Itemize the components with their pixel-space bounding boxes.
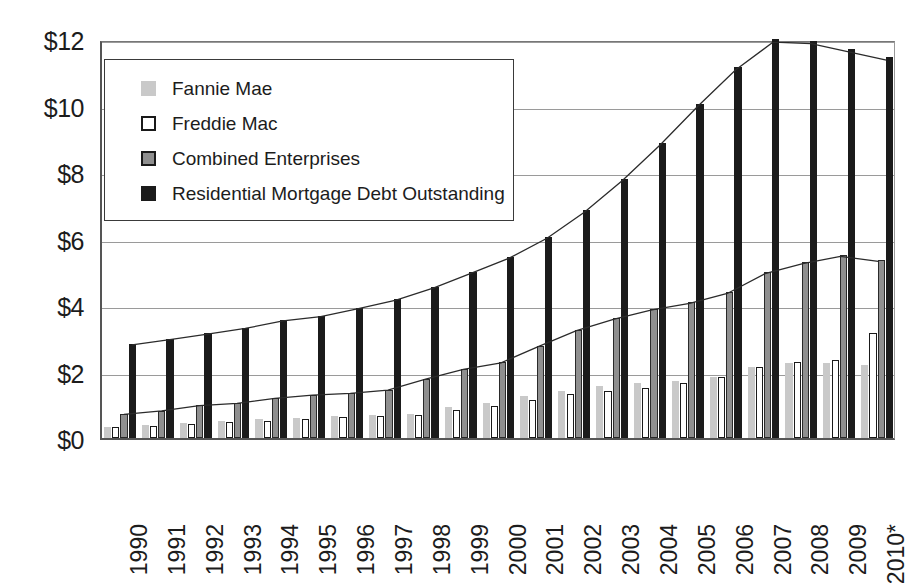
- bar-residential-mortgage-debt: [621, 179, 628, 438]
- x-tick-label: 2002: [582, 524, 605, 575]
- bar-fannie-mae: [710, 377, 717, 439]
- bar-residential-mortgage-debt: [129, 344, 136, 438]
- bar-fannie-mae: [142, 425, 149, 438]
- bar-residential-mortgage-debt: [848, 49, 855, 438]
- legend-label: Residential Mortgage Debt Outstanding: [172, 184, 505, 203]
- bar-fannie-mae: [255, 419, 262, 438]
- bar-residential-mortgage-debt: [886, 57, 893, 438]
- bar-group: [783, 42, 821, 438]
- bar-residential-mortgage-debt: [507, 257, 514, 438]
- bar-freddie-mac: [415, 415, 422, 438]
- x-tick-label: 1991: [166, 524, 189, 575]
- bar-combined-enterprises: [461, 369, 468, 438]
- x-tick-label: 2006: [734, 524, 757, 575]
- bar-combined-enterprises: [840, 255, 847, 438]
- bar-freddie-mac: [832, 360, 839, 438]
- x-tick-label: 2004: [658, 524, 681, 575]
- bar-residential-mortgage-debt: [356, 308, 363, 438]
- legend-item-fannie-mae: Fannie Mae: [141, 71, 513, 106]
- bar-residential-mortgage-debt: [166, 339, 173, 438]
- bar-freddie-mac: [718, 377, 725, 439]
- bar-freddie-mac: [604, 391, 611, 438]
- x-tick-label: 1990: [128, 524, 151, 575]
- bar-freddie-mac: [377, 416, 384, 438]
- bar-group: [670, 42, 708, 438]
- bar-freddie-mac: [567, 394, 574, 438]
- x-tick-label: 1993: [242, 524, 265, 575]
- bar-freddie-mac: [339, 417, 346, 438]
- bar-combined-enterprises: [272, 398, 279, 438]
- bar-fannie-mae: [634, 383, 641, 438]
- bar-residential-mortgage-debt: [583, 210, 590, 438]
- x-tick-label: 1994: [279, 524, 302, 575]
- bar-freddie-mac: [869, 333, 876, 438]
- bar-residential-mortgage-debt: [696, 104, 703, 438]
- bar-residential-mortgage-debt: [242, 328, 249, 438]
- bar-residential-mortgage-debt: [659, 143, 666, 438]
- legend-label: Fannie Mae: [172, 79, 272, 98]
- bar-residential-mortgage-debt: [734, 67, 741, 438]
- legend-item-residential-mortgage-debt: Residential Mortgage Debt Outstanding: [141, 176, 513, 211]
- bar-combined-enterprises: [726, 292, 733, 438]
- x-tick-label: 1998: [431, 524, 454, 575]
- x-tick-label: 2001: [544, 524, 567, 575]
- bar-group: [746, 42, 784, 438]
- bar-freddie-mac: [642, 388, 649, 438]
- bar-group: [594, 42, 632, 438]
- bar-freddie-mac: [264, 421, 271, 438]
- y-tick-label: $8: [57, 162, 84, 187]
- x-tick-label: 1999: [469, 524, 492, 575]
- bar-group: [556, 42, 594, 438]
- x-tick-label: 2008: [809, 524, 832, 575]
- x-tick-label: 2009: [847, 524, 870, 575]
- bar-group: [821, 42, 859, 438]
- bar-combined-enterprises: [196, 405, 203, 438]
- bar-combined-enterprises: [688, 302, 695, 438]
- bar-combined-enterprises: [423, 379, 430, 438]
- bar-group: [518, 42, 556, 438]
- x-tick-label: 1996: [355, 524, 378, 575]
- bar-combined-enterprises: [575, 330, 582, 438]
- x-axis: 1990199119921993199419951996199719981999…: [100, 446, 895, 528]
- bar-fannie-mae: [407, 414, 414, 438]
- bar-fannie-mae: [483, 403, 490, 438]
- bar-combined-enterprises: [537, 346, 544, 438]
- bar-fannie-mae: [180, 423, 187, 438]
- bar-group: [859, 42, 897, 438]
- y-tick-label: $4: [57, 295, 84, 320]
- bar-fannie-mae: [218, 421, 225, 438]
- bar-residential-mortgage-debt: [318, 316, 325, 438]
- bar-group: [632, 42, 670, 438]
- x-tick-label: 1997: [393, 524, 416, 575]
- bar-fannie-mae: [823, 363, 830, 438]
- bar-freddie-mac: [188, 424, 195, 438]
- bar-combined-enterprises: [385, 390, 392, 438]
- x-tick-label: 2005: [696, 524, 719, 575]
- bar-combined-enterprises: [310, 395, 317, 438]
- bar-fannie-mae: [445, 407, 452, 438]
- bar-freddie-mac: [302, 419, 309, 438]
- light-gray-square-icon: [141, 81, 156, 96]
- bar-freddie-mac: [529, 400, 536, 438]
- bar-residential-mortgage-debt: [431, 287, 438, 438]
- bar-fannie-mae: [369, 415, 376, 438]
- y-tick-label: $6: [57, 228, 84, 253]
- bar-residential-mortgage-debt: [810, 41, 817, 438]
- bar-residential-mortgage-debt: [545, 237, 552, 438]
- bar-residential-mortgage-debt: [280, 320, 287, 438]
- y-axis: $0$2$4$6$8$10$12: [0, 0, 92, 460]
- bar-combined-enterprises: [120, 414, 127, 438]
- white-square-outline-icon: [141, 116, 156, 131]
- bar-combined-enterprises: [802, 262, 809, 438]
- y-tick-label: $10: [44, 95, 84, 120]
- legend-label: Combined Enterprises: [172, 149, 360, 168]
- bar-freddie-mac: [756, 367, 763, 438]
- bar-residential-mortgage-debt: [394, 299, 401, 438]
- bar-group: [708, 42, 746, 438]
- y-tick-label: $0: [57, 428, 84, 453]
- bar-combined-enterprises: [878, 260, 885, 438]
- bar-fannie-mae: [293, 418, 300, 438]
- x-tick-label: 1992: [204, 524, 227, 575]
- bar-combined-enterprises: [348, 393, 355, 438]
